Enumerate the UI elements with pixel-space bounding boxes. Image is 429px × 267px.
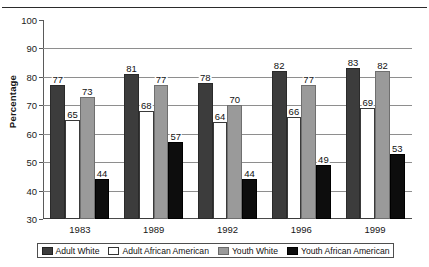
- bar-value-label: 77: [155, 74, 168, 85]
- bar-value-label: 57: [170, 131, 183, 142]
- bar-value-label: 70: [229, 94, 242, 105]
- chart-legend: Adult WhiteAdult African AmericanYouth W…: [37, 243, 394, 258]
- bar-chart-figure: Percentage 30405060708090100 77657344816…: [0, 0, 429, 267]
- y-tick-label: 80: [26, 71, 37, 82]
- bar-value-label: 82: [376, 60, 389, 71]
- bar-value-label: 44: [96, 168, 109, 179]
- x-tick-label: 1999: [346, 224, 405, 235]
- legend-label: Adult African American: [122, 246, 208, 256]
- bar: 82: [375, 71, 390, 219]
- bar: 44: [95, 179, 110, 219]
- bar-value-label: 78: [199, 72, 212, 83]
- legend-swatch-icon: [108, 247, 119, 255]
- bar-value-label: 77: [51, 74, 64, 85]
- top-divider-rule: [2, 7, 427, 8]
- bar: 77: [154, 85, 169, 219]
- y-tick-mark: [39, 134, 43, 135]
- bar-group: 83698253: [346, 20, 405, 219]
- bar: 53: [390, 154, 405, 219]
- legend-item[interactable]: Adult White: [42, 246, 100, 256]
- bar: 49: [316, 165, 331, 219]
- bar: 70: [227, 105, 242, 219]
- legend-label: Adult White: [56, 246, 100, 256]
- y-tick-mark: [39, 219, 43, 220]
- bar: 77: [50, 85, 65, 219]
- legend-label: Youth White: [232, 246, 278, 256]
- bar-value-label: 83: [347, 57, 360, 68]
- bar-value-label: 68: [140, 100, 153, 111]
- chart-title: [60, 0, 360, 3]
- y-tick-mark: [39, 20, 43, 21]
- bar: 44: [242, 179, 257, 219]
- y-tick-mark: [39, 77, 43, 78]
- y-tick-label: 60: [26, 128, 37, 139]
- bar-group: 77657344: [50, 20, 109, 219]
- bar-value-label: 73: [81, 86, 94, 97]
- bar-value-label: 81: [125, 63, 138, 74]
- legend-label: Youth African American: [301, 246, 390, 256]
- bar: 64: [213, 122, 228, 219]
- y-tick-label: 40: [26, 185, 37, 196]
- y-tick-mark: [39, 48, 43, 49]
- bar: 66: [287, 117, 302, 219]
- bar-value-label: 53: [391, 143, 404, 154]
- legend-swatch-icon: [287, 247, 298, 255]
- legend-item[interactable]: Youth African American: [287, 246, 390, 256]
- x-tick-label: 1983: [50, 224, 109, 235]
- bar: 82: [272, 71, 287, 219]
- legend-item[interactable]: Youth White: [218, 246, 278, 256]
- bar-value-label: 65: [66, 109, 79, 120]
- bar-group: 78647044: [198, 20, 257, 219]
- bar: 83: [346, 68, 361, 219]
- y-tick-label: 30: [26, 214, 37, 225]
- bar-value-label: 66: [288, 106, 301, 117]
- bar-value-label: 77: [302, 74, 315, 85]
- bar-value-label: 64: [214, 111, 227, 122]
- y-tick-label: 100: [21, 15, 37, 26]
- y-tick-mark: [39, 162, 43, 163]
- bar-value-label: 69: [361, 97, 374, 108]
- y-tick-mark: [39, 105, 43, 106]
- bar-value-label: 82: [273, 60, 286, 71]
- legend-swatch-icon: [42, 247, 53, 255]
- bar: 77: [301, 85, 316, 219]
- x-tick-label: 1989: [124, 224, 183, 235]
- bar: 57: [168, 142, 183, 219]
- bar: 69: [360, 108, 375, 219]
- bar: 65: [65, 120, 80, 220]
- bar: 81: [124, 74, 139, 219]
- y-tick-label: 50: [26, 157, 37, 168]
- x-tick-label: 1996: [272, 224, 331, 235]
- y-tick-label: 70: [26, 100, 37, 111]
- y-axis-line: [43, 20, 44, 219]
- y-axis-title: Percentage: [7, 62, 18, 142]
- bar-value-label: 44: [243, 168, 256, 179]
- bar-value-label: 49: [317, 154, 330, 165]
- bar-group: 82667749: [272, 20, 331, 219]
- legend-item[interactable]: Adult African American: [108, 246, 208, 256]
- bar-group: 81687757: [124, 20, 183, 219]
- x-tick-label: 1992: [198, 224, 257, 235]
- plot-area: 30405060708090100 7765734481687757786470…: [43, 20, 412, 219]
- bar: 68: [139, 111, 154, 219]
- bar: 78: [198, 83, 213, 219]
- y-tick-mark: [39, 191, 43, 192]
- legend-swatch-icon: [218, 247, 229, 255]
- y-tick-label: 90: [26, 43, 37, 54]
- bar: 73: [80, 97, 95, 219]
